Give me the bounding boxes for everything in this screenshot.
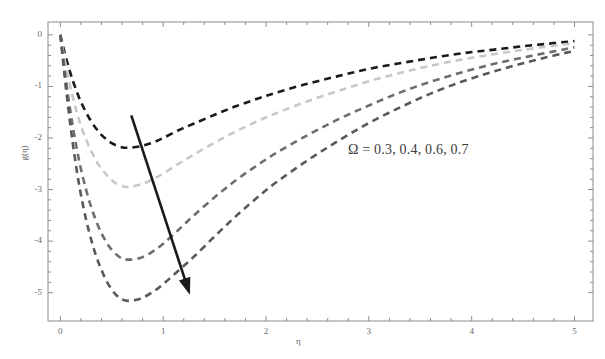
series-curve-omega-0-4 bbox=[60, 35, 574, 187]
x-tick-label: 1 bbox=[153, 326, 173, 336]
omega-values-label: Ω = 0.3, 0.4, 0.6, 0.7 bbox=[348, 142, 469, 158]
x-tick-label: 5 bbox=[564, 326, 584, 336]
y-tick-label: -5 bbox=[22, 287, 42, 297]
x-tick-label: 3 bbox=[359, 326, 379, 336]
x-tick-label: 0 bbox=[50, 326, 70, 336]
y-tick-label: -4 bbox=[22, 235, 42, 245]
x-tick-label: 2 bbox=[256, 326, 276, 336]
chart-canvas bbox=[0, 0, 605, 359]
x-tick-label: 4 bbox=[462, 326, 482, 336]
trend-arrow-head bbox=[179, 277, 190, 295]
y-tick-label: 0 bbox=[22, 29, 42, 39]
chart-figure: g(η) η Ω = 0.3, 0.4, 0.6, 0.7 0123450-1-… bbox=[0, 0, 605, 359]
x-axis-label: η bbox=[296, 336, 301, 346]
series-curve-omega-0-7 bbox=[60, 35, 574, 301]
y-tick-label: -1 bbox=[22, 80, 42, 90]
y-tick-label: -2 bbox=[22, 132, 42, 142]
y-tick-label: -3 bbox=[22, 184, 42, 194]
